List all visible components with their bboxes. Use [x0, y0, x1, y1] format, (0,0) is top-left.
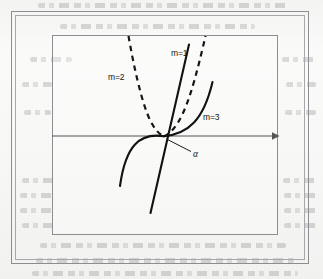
- curve-m1: [151, 45, 190, 214]
- curve-label-m2: m=2: [108, 73, 124, 82]
- curve-label-m3: m=3: [203, 113, 219, 122]
- angle-label-alpha: α: [193, 150, 198, 160]
- figure-page: m=1 m=2 m=3 α: [0, 0, 323, 279]
- x-axis-arrowhead: [272, 132, 280, 140]
- curve-label-m1: m=1: [171, 49, 187, 58]
- alpha-leader: [167, 139, 192, 152]
- figure-drawing: [0, 0, 323, 279]
